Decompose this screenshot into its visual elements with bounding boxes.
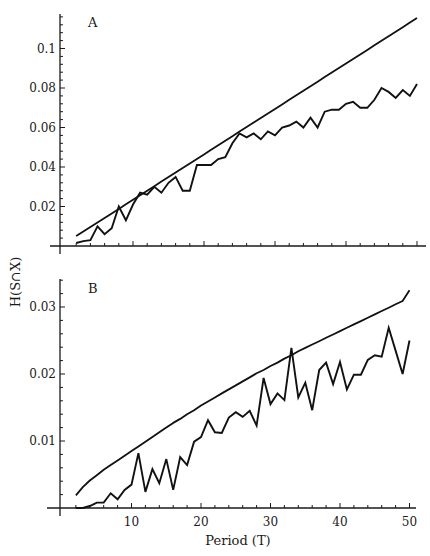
x-tick-label: 10 <box>124 515 139 529</box>
x-tick-label: 20 <box>193 515 208 529</box>
chart-canvas: 0.020.040.060.080.1 A 0.010.020.03 10203… <box>0 0 430 556</box>
panel-b-x-ticks: 1020304050 <box>76 503 417 529</box>
panel-a-upper-bound-line <box>76 18 417 236</box>
panel-b-upper-bound-line <box>76 290 410 495</box>
panel-b-observed-line <box>76 328 410 508</box>
y-tick-label: 0.06 <box>29 121 56 135</box>
panel-a-observed-line <box>76 84 417 243</box>
y-axis-title: H(S∩X) <box>8 257 23 308</box>
panel-a-x-ticks <box>76 241 417 246</box>
y-tick-label: 0.02 <box>29 367 56 381</box>
panel-b: 0.010.020.03 1020304050 B <box>29 279 417 529</box>
panel-a: 0.020.040.060.080.1 A <box>29 14 426 254</box>
x-tick-label: 40 <box>332 515 347 529</box>
x-tick-label: 30 <box>263 515 278 529</box>
y-tick-label: 0.1 <box>37 42 56 56</box>
panel-b-label: B <box>88 281 98 296</box>
y-tick-label: 0.04 <box>29 160 56 174</box>
y-tick-label: 0.03 <box>29 300 56 314</box>
y-tick-label: 0.08 <box>29 81 56 95</box>
x-axis-title: Period (T) <box>205 533 270 548</box>
y-tick-label: 0.01 <box>29 434 56 448</box>
figure: 0.020.040.060.080.1 A 0.010.020.03 10203… <box>0 0 430 556</box>
panel-a-label: A <box>87 15 98 30</box>
x-tick-label: 50 <box>402 515 417 529</box>
y-tick-label: 0.02 <box>29 200 56 214</box>
